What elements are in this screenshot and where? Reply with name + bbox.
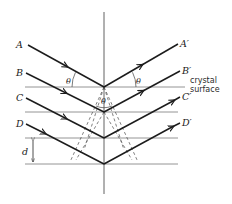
bragg-diffraction-diagram: A B C D A′ B′ C′ D′ θ θ θ d crystal surf… bbox=[0, 0, 232, 204]
reflected-ray-d bbox=[104, 123, 180, 164]
reflected-ray-c bbox=[104, 97, 180, 138]
label-d: D bbox=[15, 118, 24, 129]
theta-label-center: θ bbox=[101, 97, 106, 106]
label-a: A bbox=[15, 39, 23, 50]
crystal-surface-label-line1: crystal bbox=[190, 76, 217, 85]
reflected-rays bbox=[104, 44, 180, 164]
theta-label-right: θ bbox=[136, 77, 141, 86]
reflected-ray-a bbox=[104, 44, 178, 87]
reflected-ray-b bbox=[104, 71, 180, 112]
incident-rays bbox=[26, 45, 104, 164]
label-d-spacing: d bbox=[22, 146, 28, 157]
theta-arc-left bbox=[72, 72, 76, 87]
incident-ray-c bbox=[26, 98, 104, 138]
label-a-prime: A′ bbox=[179, 38, 190, 49]
label-b-prime: B′ bbox=[181, 65, 192, 76]
incident-ray-b bbox=[26, 73, 104, 112]
label-d-prime: D′ bbox=[181, 117, 193, 128]
crystal-surface-label-line2: surface bbox=[190, 85, 220, 94]
label-c: C bbox=[16, 92, 24, 103]
label-b: B bbox=[15, 67, 23, 78]
theta-label-left: θ bbox=[66, 77, 71, 86]
incident-ray-d bbox=[26, 124, 104, 164]
